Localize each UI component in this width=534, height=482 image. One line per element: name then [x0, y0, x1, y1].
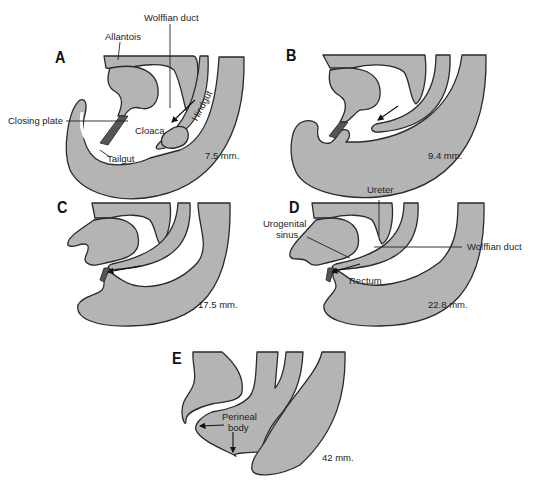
label-perineal-body-1: Perineal [222, 412, 257, 422]
label-perineal-body-2: body [228, 423, 249, 433]
stage-size-a: 7.5 mm. [205, 151, 239, 161]
label-cloaca: Cloaca [135, 126, 165, 136]
panel-label-d: D [289, 199, 299, 216]
label-urogenital-sinus-2: sinus [276, 230, 298, 240]
panel-label-b: B [286, 47, 296, 64]
panel-a-drawing [66, 24, 244, 199]
panel-e-drawing [182, 352, 345, 475]
label-wolffian-duct-a: Wolffian duct [144, 13, 199, 23]
label-ureter: Ureter [367, 185, 393, 195]
label-rectum: Rectum [349, 276, 382, 286]
label-allantois: Allantois [105, 32, 141, 42]
panel-label-a: A [55, 49, 65, 66]
label-urogenital-sinus-1: Urogenital [263, 219, 306, 229]
panel-b-drawing [291, 55, 486, 198]
stage-size-d: 22.8 mm. [428, 300, 468, 310]
label-tailgut: Tailgut [107, 154, 134, 164]
label-closing-plate: Closing plate [8, 116, 63, 126]
embryology-diagram [0, 0, 534, 482]
stage-size-b: 9.4 mm. [428, 151, 462, 161]
stage-size-e: 42 mm. [322, 453, 354, 463]
stage-size-c: 17.5 mm. [198, 300, 238, 310]
panel-label-e: E [172, 350, 182, 367]
label-wolffian-duct-d: Wolffian duct [467, 242, 522, 252]
panel-label-c: C [57, 199, 67, 216]
